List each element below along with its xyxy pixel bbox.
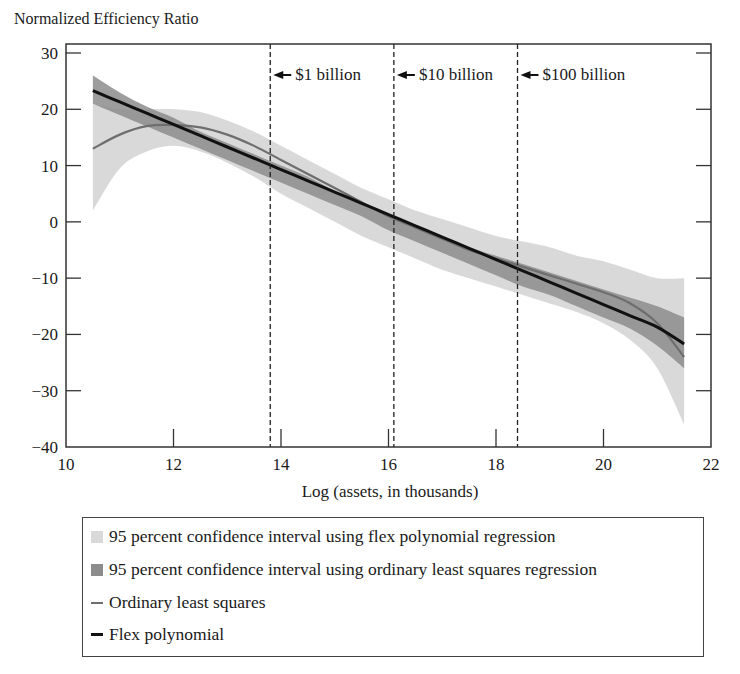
x-tick-label: 22 <box>703 455 720 474</box>
black-line-icon <box>91 633 103 636</box>
gray-line-icon <box>91 602 103 604</box>
legend: 95 percent confidence interval using fle… <box>82 517 704 657</box>
y-tick-label: 10 <box>41 157 58 176</box>
arrow-left-icon <box>273 71 291 79</box>
x-tick-label: 18 <box>488 455 505 474</box>
legend-label: Flex polynomial <box>109 624 224 645</box>
legend-label: 95 percent confidence interval using ord… <box>109 559 597 580</box>
legend-item-ols: Ordinary least squares <box>91 592 265 613</box>
x-tick-label: 20 <box>595 455 612 474</box>
y-tick-label: 20 <box>41 100 58 119</box>
y-tick-label: −10 <box>31 269 58 288</box>
x-tick-label: 12 <box>165 455 182 474</box>
x-tick-label: 10 <box>58 455 75 474</box>
x-tick-label: 14 <box>273 455 291 474</box>
reference-label: $100 billion <box>543 65 626 84</box>
arrow-left-icon <box>397 71 415 79</box>
legend-label: 95 percent confidence interval using fle… <box>109 526 556 547</box>
x-axis-label: Log (assets, in thousands) <box>0 482 740 502</box>
light-gray-swatch-icon <box>91 531 103 543</box>
legend-item-flex-ci: 95 percent confidence interval using fle… <box>91 526 556 547</box>
legend-item-flex: Flex polynomial <box>91 624 224 645</box>
reference-label: $1 billion <box>295 65 361 84</box>
legend-label: Ordinary least squares <box>109 592 265 613</box>
dark-gray-swatch-icon <box>91 564 103 576</box>
arrow-left-icon <box>521 71 539 79</box>
confidence-band <box>93 104 684 425</box>
y-tick-label: −40 <box>31 438 58 457</box>
reference-label: $10 billion <box>419 65 494 84</box>
y-tick-label: −30 <box>31 382 58 401</box>
y-tick-label: 0 <box>50 213 59 232</box>
legend-item-ols-ci: 95 percent confidence interval using ord… <box>91 559 597 580</box>
y-tick-label: 30 <box>41 44 58 63</box>
plot-area: $1 billion$10 billion$100 billion3020100… <box>0 0 740 480</box>
y-tick-label: −20 <box>31 325 58 344</box>
x-tick-label: 16 <box>380 455 397 474</box>
chart: Normalized Efficiency Ratio $1 billion$1… <box>0 0 740 674</box>
